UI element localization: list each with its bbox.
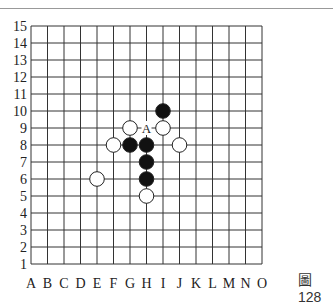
row-label: 14 xyxy=(13,36,27,51)
black-stone-H7 xyxy=(139,155,154,170)
row-label: 7 xyxy=(20,155,27,170)
column-label: A xyxy=(26,276,37,291)
column-label: H xyxy=(141,276,151,291)
column-label: J xyxy=(177,276,183,291)
black-stone-H8 xyxy=(139,138,154,153)
column-label: B xyxy=(43,276,52,291)
point-mark-A: A xyxy=(142,121,152,136)
row-label: 13 xyxy=(13,53,27,68)
row-label: 1 xyxy=(20,257,27,272)
row-label: 8 xyxy=(20,138,27,153)
column-label: O xyxy=(257,276,267,291)
row-label: 2 xyxy=(20,240,27,255)
figure-caption: 圖128 xyxy=(298,269,333,305)
column-label: N xyxy=(240,276,250,291)
row-label: 5 xyxy=(20,189,27,204)
row-label: 10 xyxy=(13,104,27,119)
column-label: E xyxy=(93,276,102,291)
row-label: 11 xyxy=(14,87,27,102)
column-label: F xyxy=(110,276,118,291)
row-label: 9 xyxy=(20,121,27,136)
column-label: G xyxy=(125,276,135,291)
column-label: L xyxy=(208,276,217,291)
column-label: M xyxy=(223,276,236,291)
black-stone-I10 xyxy=(156,104,171,119)
column-label: I xyxy=(161,276,166,291)
column-label: D xyxy=(75,276,85,291)
white-stone-F8 xyxy=(106,138,121,153)
column-label: C xyxy=(59,276,68,291)
row-label: 6 xyxy=(20,172,27,187)
row-label: 4 xyxy=(20,206,27,221)
white-stone-J8 xyxy=(172,138,187,153)
column-label: K xyxy=(191,276,201,291)
black-stone-G8 xyxy=(123,138,138,153)
white-stone-I9 xyxy=(156,121,171,136)
white-stone-H5 xyxy=(139,189,154,204)
white-stone-G9 xyxy=(123,121,138,136)
black-stone-H6 xyxy=(139,172,154,187)
white-stone-E6 xyxy=(90,172,105,187)
row-label: 15 xyxy=(13,19,27,34)
row-label: 12 xyxy=(13,70,27,85)
row-label: 3 xyxy=(20,223,27,238)
